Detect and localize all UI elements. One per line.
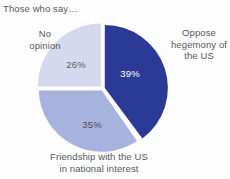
pie-value-label-friendship: 35% bbox=[82, 119, 102, 130]
callout-no-opinion-line-1: No bbox=[14, 28, 76, 40]
pie-callout-friendship: Friendship with the US in national inter… bbox=[24, 151, 174, 174]
pie-chart-figure: Those who say… 39% 35% 26% Oppose hegemo… bbox=[0, 0, 230, 179]
pie-value-label-no-opinion: 26% bbox=[66, 59, 86, 70]
callout-friendship-line-2: in national interest bbox=[24, 163, 174, 175]
pie-callout-no-opinion: No opinion bbox=[14, 28, 76, 51]
pie-callout-oppose-hegemony: Oppose hegemony of the US bbox=[168, 27, 230, 62]
callout-oppose-line-2: hegemony of bbox=[168, 39, 230, 51]
pie-value-label-oppose: 39% bbox=[120, 68, 140, 79]
callout-oppose-line-1: Oppose bbox=[168, 27, 230, 39]
callout-friendship-line-1: Friendship with the US bbox=[24, 151, 174, 163]
callout-oppose-line-3: the US bbox=[168, 50, 230, 62]
callout-no-opinion-line-2: opinion bbox=[14, 40, 76, 52]
